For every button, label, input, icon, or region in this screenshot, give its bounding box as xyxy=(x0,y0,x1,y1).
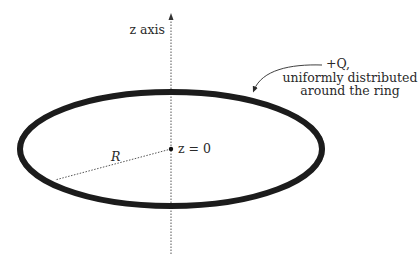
origin-dot xyxy=(169,147,173,151)
z-axis-label: z axis xyxy=(130,22,165,37)
radius-label: R xyxy=(110,149,120,164)
charge-annotation: +Q, uniformly distributed around the rin… xyxy=(254,56,418,98)
z-axis-arrow-icon xyxy=(169,13,174,20)
z-axis xyxy=(169,13,174,254)
charge-description-line2: around the ring xyxy=(300,83,400,98)
origin-label: z = 0 xyxy=(178,141,211,156)
charge-label: +Q, xyxy=(326,56,350,71)
ring-charge-diagram: z axis z = 0 R +Q, uniformly distributed… xyxy=(0,0,418,264)
